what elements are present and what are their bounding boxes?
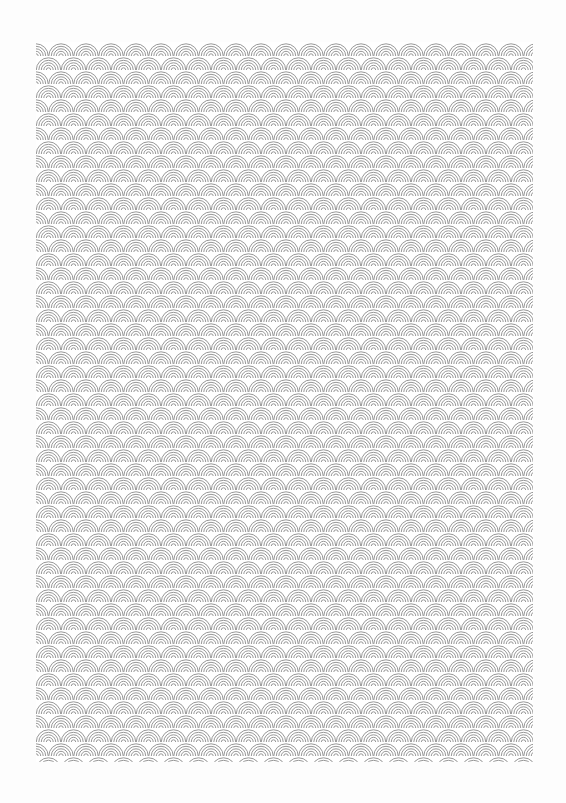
- pattern-fill-rect: [36, 42, 533, 762]
- artboard: Seigaiha Wave Pattern Repeating Japanese…: [0, 0, 566, 803]
- seigaiha-pattern-panel: Seigaiha Wave Pattern Repeating Japanese…: [36, 42, 533, 762]
- seigaiha-pattern-svg: Seigaiha Wave Pattern Repeating Japanese…: [36, 42, 533, 762]
